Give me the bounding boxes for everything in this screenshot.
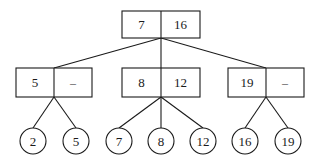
edge-left-to-leaf xyxy=(33,97,54,128)
edge-root-to-left xyxy=(54,38,161,68)
empty-key-slot: – xyxy=(281,76,289,90)
edge-root-to-right xyxy=(161,38,266,68)
edge-right-to-leaf xyxy=(266,97,288,128)
empty-key-slot: – xyxy=(69,76,77,90)
node-key: 16 xyxy=(174,17,188,32)
internal-node-right: 19– xyxy=(228,68,304,97)
leaf-value: 5 xyxy=(73,134,80,149)
leaf-value: 16 xyxy=(239,134,253,149)
internal-node-middle: 812 xyxy=(122,68,200,97)
root-node: 716 xyxy=(122,11,200,38)
leaf-node: 8 xyxy=(148,128,174,154)
leaf-value: 12 xyxy=(197,134,210,149)
internal-node-left: 5– xyxy=(16,68,92,97)
leaf-value: 2 xyxy=(30,134,37,149)
node-key: 19 xyxy=(241,75,254,90)
node-key: 12 xyxy=(174,75,187,90)
edge-right-to-leaf xyxy=(245,97,266,128)
root-node: 716 xyxy=(122,11,200,38)
leaf-node: 2 xyxy=(20,128,46,154)
edge-middle-to-leaf xyxy=(119,97,161,128)
leaf-node: 5 xyxy=(63,128,89,154)
node-key: 8 xyxy=(138,75,145,90)
leaf-value: 8 xyxy=(158,134,165,149)
node-key: 7 xyxy=(138,17,145,32)
leaf-node: 12 xyxy=(190,128,216,154)
leaf-nodes: 2578121619 xyxy=(20,128,301,154)
node-key: 5 xyxy=(32,75,39,90)
edge-left-to-leaf xyxy=(54,97,76,128)
internal-nodes: 5–81219– xyxy=(16,68,304,97)
leaf-node: 19 xyxy=(275,128,301,154)
leaf-node: 7 xyxy=(106,128,132,154)
leaf-node: 16 xyxy=(232,128,258,154)
leaf-value: 7 xyxy=(116,134,123,149)
leaf-value: 19 xyxy=(282,134,295,149)
tree-diagram: 716 5–81219– 2578121619 xyxy=(0,0,321,166)
edge-middle-to-leaf xyxy=(161,97,203,128)
